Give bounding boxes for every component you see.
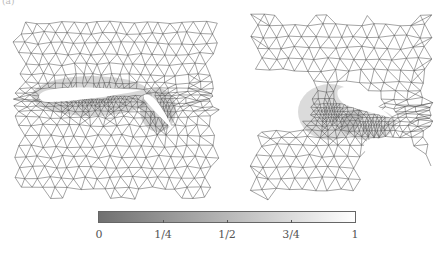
slat-cutout <box>364 138 433 205</box>
colorbar-tick-mark <box>227 220 228 223</box>
full-domain-mesh-plot <box>0 0 232 205</box>
colorbar-tick-label: 1 <box>352 228 359 241</box>
colorbar-tick-label: 0 <box>96 228 103 241</box>
panel-label: (a) <box>2 0 14 6</box>
colorbar-tick-label: 1/4 <box>154 228 172 241</box>
zoomed-slot-mesh-panel <box>240 0 443 205</box>
colorbar-tick-mark <box>291 220 292 223</box>
full-domain-mesh-panel: (a) <box>0 0 232 205</box>
colorbar-tick-mark <box>163 220 164 223</box>
colorbar-tick-label: 3/4 <box>282 228 300 241</box>
colorbar-tick-label: 1/2 <box>218 228 236 241</box>
main-wing-cutout <box>240 72 295 130</box>
zoomed-slot-mesh-plot <box>240 0 443 205</box>
